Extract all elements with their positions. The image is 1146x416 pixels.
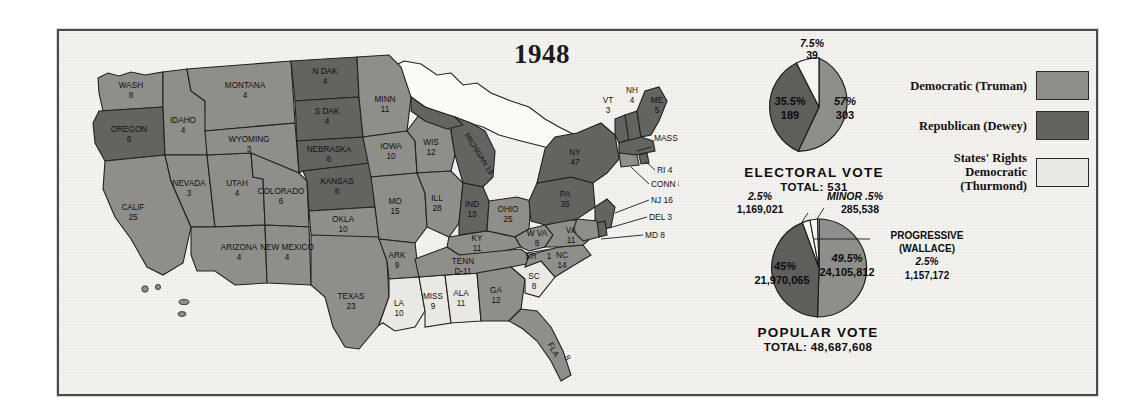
legend-label-states-rights: States' Rights Democratic (Thurmond)	[904, 151, 1036, 193]
label-n-dak-votes: 4	[323, 77, 328, 86]
channel-island	[142, 286, 148, 292]
state-indiana[interactable]	[459, 183, 489, 235]
legend-swatch-democratic	[1036, 71, 1089, 100]
state-florida[interactable]	[509, 309, 571, 381]
state-rhode-island[interactable]	[639, 153, 649, 164]
label-va-name: VA	[566, 226, 577, 235]
label-mo-votes: 15	[390, 207, 400, 216]
label-tenn-sr-name: SR	[525, 252, 536, 261]
state-maine[interactable]	[637, 87, 667, 137]
label-ind-name: IND	[465, 200, 479, 209]
label-colorado-votes: 6	[279, 197, 284, 206]
label-texas-name: TEXAS	[338, 292, 365, 301]
election-map-infographic: 1948	[0, 0, 1146, 416]
state-connecticut[interactable]	[619, 153, 639, 167]
label-wyoming-name: WYOMING	[229, 135, 270, 144]
label-n-dak-name: N DAK	[312, 67, 338, 76]
label-kansas-votes: 8	[335, 187, 340, 196]
label-wis-votes: 12	[426, 148, 436, 157]
label-ga-votes: 12	[491, 296, 501, 305]
label-sc-votes: 8	[532, 282, 537, 291]
label-idaho-votes: 4	[181, 126, 186, 135]
label-pa-votes: 35	[560, 200, 570, 209]
legend: Democratic (Truman) Republican (Dewey) S…	[904, 71, 1089, 204]
leader-md	[601, 235, 643, 239]
electoral-dem-value: 303	[836, 109, 854, 121]
label-wyoming-votes: 3	[247, 145, 252, 154]
leader-conn	[631, 167, 649, 184]
callout-md: MD 8	[645, 230, 665, 240]
label-okla-name: OKLA	[332, 215, 354, 224]
framed-panel: 1948	[57, 29, 1098, 396]
popular-vote-chart: 2.5% 1,169,021 MINOR .5% 285,538 49.5% 2…	[684, 186, 984, 353]
label-ky-name: KY	[472, 234, 483, 243]
label-nebraska-votes: 6	[327, 155, 332, 164]
label-montana-name: MONTANA	[225, 81, 266, 90]
us-electoral-map: WASH 8 OREGON 6 CALIF 25 IDAHO 4 NEVADA …	[59, 31, 679, 394]
label-nc-votes: 14	[557, 261, 567, 270]
popular-dem-percent: 49.5%	[830, 252, 862, 264]
label-minn-name: MINN	[375, 95, 396, 104]
channel-island	[178, 312, 186, 317]
popular-rep-value: 21,970,065	[754, 274, 809, 286]
label-minn-votes: 11	[381, 105, 390, 114]
legend-swatch-republican	[1036, 111, 1089, 140]
label-ark-votes: 9	[395, 261, 400, 270]
popular-progressive-percent: 2.5%	[915, 256, 939, 267]
label-tenn-name: TENN	[452, 257, 474, 266]
legend-item-republican[interactable]: Republican (Dewey)	[904, 111, 1089, 140]
label-ny-name: NY	[569, 148, 581, 157]
state-oregon[interactable]	[93, 107, 165, 161]
label-w-va-votes: 8	[535, 239, 540, 248]
callout-mass: MASS 16	[654, 133, 679, 143]
label-calif-votes: 25	[128, 213, 138, 222]
electoral-dem-percent: 57%	[834, 95, 856, 107]
label-tenn-votes: D-11	[454, 267, 472, 276]
label-utah-name: UTAH	[226, 179, 248, 188]
state-alabama[interactable]	[445, 273, 481, 323]
legend-item-democratic[interactable]: Democratic (Truman)	[904, 71, 1089, 100]
legend-label-democratic: Democratic (Truman)	[910, 79, 1036, 93]
label-ohio-name: OHIO	[498, 205, 519, 214]
label-arizona-name: ARIZONA	[221, 243, 258, 252]
label-ind-votes: 13	[467, 210, 477, 219]
leader-nj	[615, 200, 649, 213]
label-ill-name: ILL	[431, 194, 443, 203]
callout-ri: RI 4	[657, 165, 673, 175]
legend-label-republican: Republican (Dewey)	[919, 119, 1036, 133]
label-nc-name: NC	[556, 251, 568, 260]
label-s-dak-name: S DAK	[315, 107, 340, 116]
popular-dem-value: 24,105,812	[819, 266, 874, 278]
label-new-mexico-name: NEW MEXICO	[260, 243, 314, 252]
label-wash-votes: 8	[129, 91, 134, 100]
label-me-name: ME	[651, 96, 664, 105]
state-arizona[interactable]	[191, 225, 267, 285]
electoral-sr-percent: 7.5%	[800, 37, 825, 49]
popular-progressive-sub: (WALLACE)	[899, 243, 955, 254]
label-iowa-name: IOWA	[380, 142, 402, 151]
label-okla-votes: 10	[338, 225, 348, 234]
legend-swatch-states-rights	[1036, 158, 1089, 187]
label-pa-name: PA	[560, 190, 571, 199]
electoral-rep-value: 189	[781, 109, 799, 121]
label-oregon-votes: 6	[127, 135, 132, 144]
leader-del	[609, 217, 647, 228]
channel-island	[179, 299, 189, 304]
label-arizona-votes: 4	[237, 253, 242, 262]
popular-progressive-value: 1,157,172	[905, 270, 950, 281]
label-miss-votes: 9	[431, 302, 436, 311]
label-nh-votes: 4	[630, 96, 635, 105]
label-kansas-name: KANSAS	[320, 177, 354, 186]
legend-item-states-rights[interactable]: States' Rights Democratic (Thurmond)	[904, 151, 1089, 193]
label-ohio-votes: 25	[503, 215, 513, 224]
label-oregon-name: OREGON	[111, 125, 147, 134]
popular-vote-total: TOTAL: 48,687,608	[683, 341, 953, 353]
label-ky-votes: 11	[473, 244, 482, 253]
label-iowa-votes: 10	[386, 152, 396, 161]
label-tenn-sr-votes: 1	[547, 252, 552, 261]
label-utah-votes: 4	[235, 189, 240, 198]
label-vt-votes: 3	[606, 106, 611, 115]
label-calif-name: CALIF	[121, 203, 144, 212]
popular-vote-title: POPULAR VOTE	[683, 325, 953, 340]
electoral-sr-value: 39	[806, 49, 818, 61]
